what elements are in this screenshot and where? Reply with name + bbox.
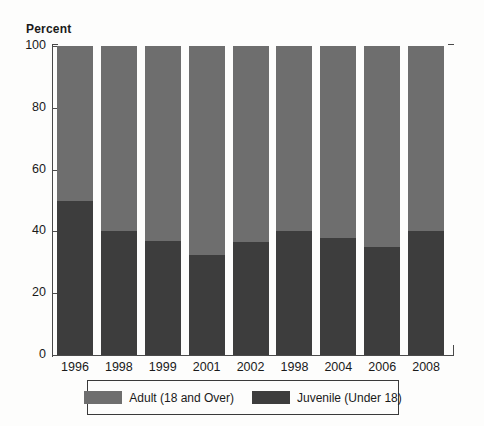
y-axis-title: Percent <box>26 22 71 36</box>
bar-segment-adult <box>276 46 312 231</box>
y-axis-tick-label: 0 <box>4 347 46 361</box>
y-axis-tick-label: 100 <box>4 38 46 52</box>
plot-frame-corner-right-vertical <box>453 345 454 356</box>
bar-column <box>320 46 356 355</box>
stacked-bar-chart: Percent 100806040200 1996199819992001200… <box>0 0 484 426</box>
legend-swatch <box>252 391 290 404</box>
bar-segment-juvenile <box>145 241 181 355</box>
bar-column <box>233 46 269 355</box>
legend-entry: Adult (18 and Over) <box>84 391 234 405</box>
bar-segment-juvenile <box>408 231 444 355</box>
plot-area <box>52 46 452 355</box>
x-axis-line <box>52 355 454 356</box>
bar-segment-juvenile <box>233 242 269 355</box>
bar-segment-adult <box>233 46 269 242</box>
y-axis-tick-label: 60 <box>4 162 46 176</box>
bar-segment-adult <box>145 46 181 241</box>
bar-column <box>57 46 93 355</box>
y-axis-tick <box>52 355 58 356</box>
bar-column <box>101 46 137 355</box>
plot-frame-corner-right <box>448 44 454 45</box>
chart-legend: Adult (18 and Over)Juvenile (Under 18) <box>87 380 399 415</box>
bar-segment-adult <box>101 46 137 231</box>
bar-column <box>276 46 312 355</box>
bar-segment-juvenile <box>57 201 93 356</box>
bar-column <box>364 46 400 355</box>
bar-segment-juvenile <box>101 231 137 355</box>
bar-segment-adult <box>320 46 356 238</box>
legend-entry: Juvenile (Under 18) <box>252 391 402 405</box>
bar-segment-adult <box>364 46 400 247</box>
legend-label: Adult (18 and Over) <box>129 391 234 405</box>
legend-label: Juvenile (Under 18) <box>297 391 402 405</box>
bar-column <box>408 46 444 355</box>
bar-segment-adult <box>189 46 225 255</box>
plot-frame-corner-left <box>52 44 58 45</box>
bar-segment-adult <box>408 46 444 231</box>
bar-column <box>189 46 225 355</box>
legend-swatch <box>84 391 122 404</box>
y-axis-tick-label: 40 <box>4 223 46 237</box>
bar-segment-juvenile <box>320 238 356 355</box>
bar-segment-adult <box>57 46 93 201</box>
bar-column <box>145 46 181 355</box>
bar-segment-juvenile <box>189 255 225 355</box>
y-axis-tick-label: 80 <box>4 100 46 114</box>
y-axis-tick-label: 20 <box>4 285 46 299</box>
x-axis-tick-label: 2008 <box>398 360 454 374</box>
bar-segment-juvenile <box>276 231 312 355</box>
bar-segment-juvenile <box>364 247 400 355</box>
